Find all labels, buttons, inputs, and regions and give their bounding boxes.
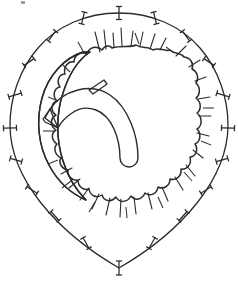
tick-mark-cap [21,159,23,165]
white-hook-structure [45,89,138,167]
tick-mark-cap [32,56,35,61]
dash-mark [158,197,163,208]
tick-mark-stem [9,93,21,97]
outer-capsule-contour [10,13,228,268]
dash-mark [48,160,58,164]
figure-canvas: Anatomical cross-section line drawing [0,0,238,282]
tick-mark-stem [201,187,211,193]
dash-mark [126,207,127,218]
spike-projection [150,34,155,49]
tick-mark-cap [81,11,87,13]
corner-speck [21,1,25,4]
spike-projection [197,133,209,136]
spike-projection [160,38,166,50]
dash-mark [135,33,139,44]
tick-mark-cap [9,155,11,161]
dash-mark [201,141,211,145]
spike-projection [131,31,133,46]
anatomical-diagram: Anatomical cross-section line drawing [0,0,238,282]
spike-projection [95,32,100,52]
tick-mark-cap [151,11,157,13]
spike-projection [198,97,210,99]
tick-mark-cap [215,159,217,165]
tick-mark-cap [8,94,10,100]
spike-projection [162,187,168,201]
tick-mark-cap [227,155,229,161]
tick-mark-cap [216,90,218,96]
dash-mark [184,172,192,181]
tick-mark-cap [79,23,85,25]
tick-mark-cap [228,94,230,100]
spike-projection [121,28,122,46]
spike-projection [140,32,143,46]
tick-mark-stem [27,187,37,193]
dash-mark [78,42,83,51]
tick-mark-stem [217,93,229,97]
tick-mark-cap [20,90,22,96]
tick-mark-cap [153,23,159,25]
tick-mark-cap [202,56,205,61]
spike-projection [113,33,114,47]
